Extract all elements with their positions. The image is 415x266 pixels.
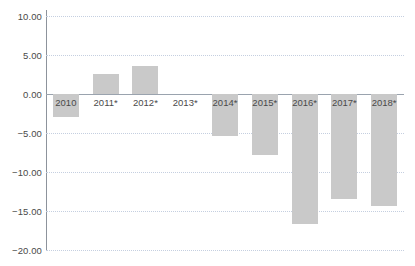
x-axis-category-labels: 20102011*2012*2013*2014*2015*2016*2017*2… [0,0,415,266]
x-axis-tick-label: 2010 [55,97,76,108]
x-axis-tick-label: 2016* [292,97,317,108]
x-axis-tick-label: 2015* [252,97,277,108]
x-axis-tick-label: 2012* [133,97,158,108]
bar-chart: 10.005.000.00−5.00−10.00−15.00−20.00 201… [0,0,415,266]
x-axis-tick-label: 2018* [372,97,397,108]
x-axis-tick-label: 2014* [213,97,238,108]
x-axis-tick-label: 2017* [332,97,357,108]
x-axis-tick-label: 2013* [173,97,198,108]
x-axis-tick-label: 2011* [94,97,118,108]
